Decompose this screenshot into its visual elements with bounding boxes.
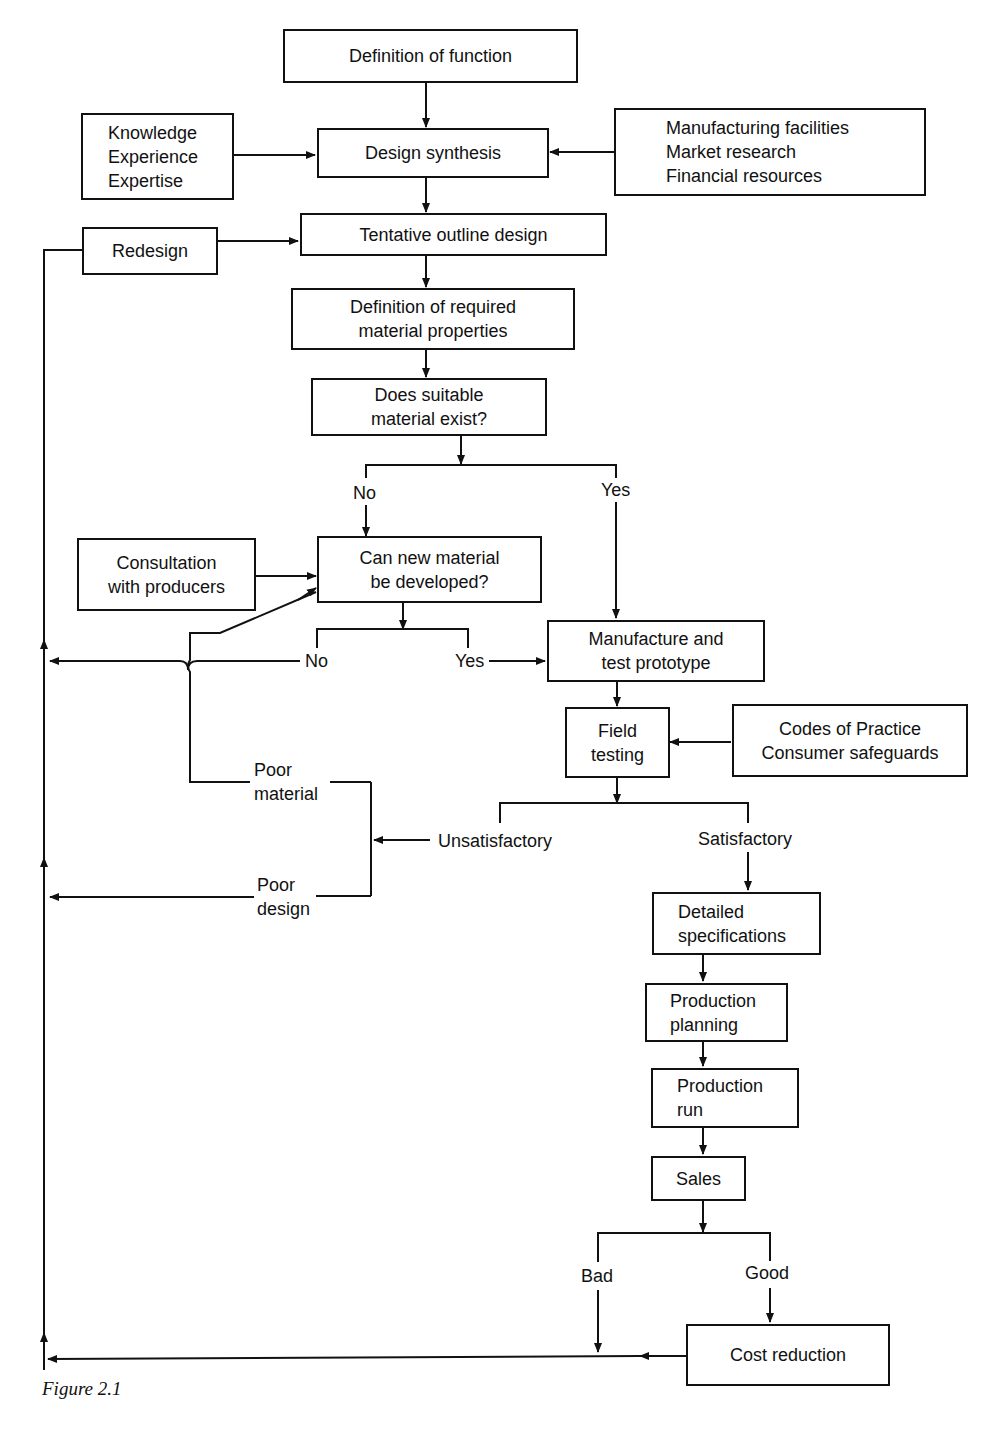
node-text: test prototype xyxy=(601,651,710,675)
node-text: testing xyxy=(591,743,644,767)
node-text: Redesign xyxy=(112,239,188,263)
node-detailed-specifications: Detailed specifications xyxy=(652,892,821,955)
node-production-run: Production run xyxy=(651,1068,799,1128)
node-text: Consumer safeguards xyxy=(761,741,938,765)
node-text: Codes of Practice xyxy=(779,717,921,741)
node-definition-of-function: Definition of function xyxy=(283,29,578,83)
node-text: Definition of function xyxy=(349,44,512,68)
branch-label-yes: Yes xyxy=(599,478,632,502)
node-text: Consultation xyxy=(116,551,216,575)
branch-label-bad: Bad xyxy=(579,1264,615,1288)
branch-label-poor-design: Poor design xyxy=(255,873,312,921)
node-sales: Sales xyxy=(651,1156,746,1201)
node-redesign: Redesign xyxy=(82,227,218,275)
node-text: Experience xyxy=(108,145,198,169)
node-text: Production xyxy=(670,989,756,1013)
node-text: Definition of required xyxy=(350,295,516,319)
node-text: Cost reduction xyxy=(730,1343,846,1367)
node-text: planning xyxy=(670,1013,738,1037)
label-line: Poor xyxy=(257,873,310,897)
node-text: run xyxy=(677,1098,703,1122)
node-text: Sales xyxy=(676,1167,721,1191)
node-text: with producers xyxy=(108,575,225,599)
branch-label-no: No xyxy=(303,649,330,673)
node-text: Design synthesis xyxy=(365,141,501,165)
node-tentative-outline-design: Tentative outline design xyxy=(300,213,607,256)
node-text: Production xyxy=(677,1074,763,1098)
node-design-synthesis: Design synthesis xyxy=(317,128,549,178)
label-line: material xyxy=(254,782,318,806)
node-consultation-with-producers: Consultation with producers xyxy=(77,538,256,611)
node-text: Expertise xyxy=(108,169,183,193)
node-text: material properties xyxy=(358,319,507,343)
node-text: material exist? xyxy=(371,407,487,431)
node-manufacture-test-prototype: Manufacture and test prototype xyxy=(547,620,765,682)
node-field-testing: Field testing xyxy=(565,707,670,778)
node-text: Manufacture and xyxy=(588,627,723,651)
node-text: Market research xyxy=(666,140,796,164)
node-text: Manufacturing facilities xyxy=(666,116,849,140)
node-text: Does suitable xyxy=(374,383,483,407)
node-text: Tentative outline design xyxy=(359,223,547,247)
label-line: Poor xyxy=(254,758,318,782)
node-knowledge-experience-expertise: Knowledge Experience Expertise xyxy=(81,113,234,200)
branch-label-poor-material: Poor material xyxy=(252,758,320,806)
node-new-material-developed: Can new material be developed? xyxy=(317,536,542,603)
node-text: Knowledge xyxy=(108,121,197,145)
node-production-planning: Production planning xyxy=(645,983,788,1042)
node-text: be developed? xyxy=(370,570,488,594)
node-suitable-material-exists: Does suitable material exist? xyxy=(311,378,547,436)
node-resources: Manufacturing facilities Market research… xyxy=(614,108,926,196)
node-text: Field xyxy=(598,719,637,743)
node-text: specifications xyxy=(678,924,786,948)
branch-label-yes: Yes xyxy=(453,649,486,673)
label-line: design xyxy=(257,897,310,921)
figure-caption: Figure 2.1 xyxy=(42,1378,122,1400)
node-cost-reduction: Cost reduction xyxy=(686,1324,890,1386)
node-required-material-properties: Definition of required material properti… xyxy=(291,288,575,350)
node-codes-of-practice: Codes of Practice Consumer safeguards xyxy=(732,704,968,777)
branch-label-satisfactory: Satisfactory xyxy=(696,827,794,851)
branch-label-no: No xyxy=(351,481,378,505)
branch-label-good: Good xyxy=(743,1261,791,1285)
branch-label-unsatisfactory: Unsatisfactory xyxy=(436,829,554,853)
node-text: Can new material xyxy=(359,546,499,570)
node-text: Financial resources xyxy=(666,164,822,188)
node-text: Detailed xyxy=(678,900,744,924)
